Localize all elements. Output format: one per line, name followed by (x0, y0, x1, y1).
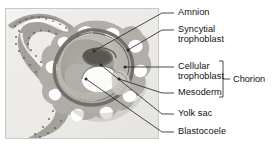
histology-micrograph (5, 8, 159, 139)
label-chorion: Chorion (233, 74, 265, 84)
micrograph-drawing (6, 9, 158, 138)
label-yolk-sac: Yolk sac (178, 108, 212, 119)
label-amnion: Amnion (178, 7, 209, 18)
label-blastocoele: Blastocoele (178, 126, 226, 137)
figure-root: Amnion Syncytial trophoblast Cellular tr… (0, 0, 279, 149)
label-syncytial-trophoblast: Syncytial trophoblast (178, 24, 224, 44)
label-mesoderm: Mesoderm (178, 87, 222, 98)
label-cellular-trophoblast: Cellular trophoblast (178, 61, 224, 81)
